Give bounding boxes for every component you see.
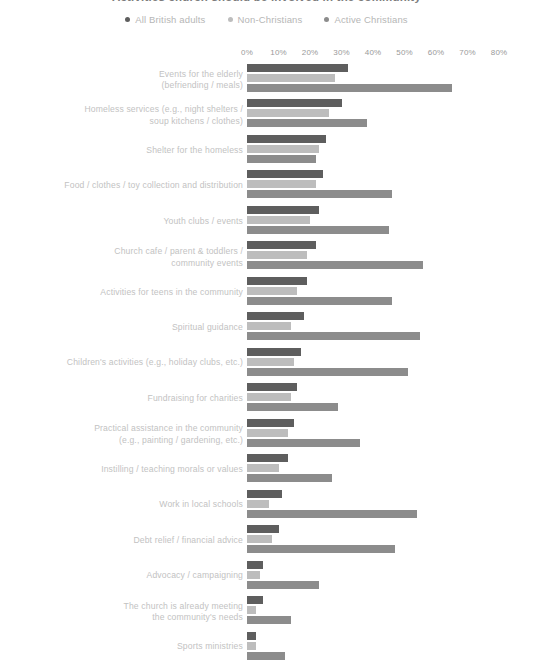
bar-active-christians[interactable] <box>247 510 417 518</box>
bar-all-british-adults[interactable] <box>247 454 288 462</box>
horizontal-bar-chart: Activities church should be involved in … <box>0 0 533 665</box>
bar-active-christians[interactable] <box>247 84 452 92</box>
bar-active-christians[interactable] <box>247 119 367 127</box>
bar-group <box>247 488 533 523</box>
category-label: Church cafe / parent & toddlers /communi… <box>11 246 243 269</box>
bar-all-british-adults[interactable] <box>247 561 263 569</box>
chart-title: Activities church should be involved in … <box>0 0 533 3</box>
x-axis-tick-20: 20% <box>302 48 318 57</box>
bar-non-christians[interactable] <box>247 358 294 366</box>
dot-icon <box>324 17 329 22</box>
chart-row: The church is already meetingthe communi… <box>0 594 533 629</box>
bar-non-christians[interactable] <box>247 145 319 153</box>
x-axis-tick-80: 80% <box>491 48 507 57</box>
bar-non-christians[interactable] <box>247 464 279 472</box>
bar-active-christians[interactable] <box>247 474 332 482</box>
bar-non-christians[interactable] <box>247 500 269 508</box>
bar-all-british-adults[interactable] <box>247 490 282 498</box>
legend-item-all-british-adults[interactable]: All British adults <box>125 14 205 25</box>
bar-active-christians[interactable] <box>247 439 360 447</box>
chart-row: Shelter for the homeless <box>0 133 533 168</box>
category-label: Advocacy / campaigning <box>11 571 243 583</box>
category-label: Events for the elderly(befriending / mea… <box>11 68 243 91</box>
chart-row: Church cafe / parent & toddlers /communi… <box>0 239 533 274</box>
bar-non-christians[interactable] <box>247 287 297 295</box>
bar-all-british-adults[interactable] <box>247 596 263 604</box>
bar-non-christians[interactable] <box>247 180 316 188</box>
x-axis-tick-0: 0% <box>241 48 253 57</box>
category-label: Practical assistance in the community(e.… <box>11 423 243 446</box>
bar-active-christians[interactable] <box>247 332 420 340</box>
legend-item-non-christians[interactable]: Non-Christians <box>228 14 303 25</box>
bar-group <box>247 559 533 594</box>
category-label: Fundraising for charities <box>11 393 243 405</box>
bar-non-christians[interactable] <box>247 74 335 82</box>
bar-all-british-adults[interactable] <box>247 419 294 427</box>
bar-active-christians[interactable] <box>247 155 316 163</box>
bar-non-christians[interactable] <box>247 606 256 614</box>
category-label: Shelter for the homeless <box>11 145 243 157</box>
legend-label: Active Christians <box>334 14 407 25</box>
bar-non-christians[interactable] <box>247 535 272 543</box>
bar-all-british-adults[interactable] <box>247 99 342 107</box>
bar-all-british-adults[interactable] <box>247 525 279 533</box>
category-label: Spiritual guidance <box>11 322 243 334</box>
bar-active-christians[interactable] <box>247 652 285 660</box>
bar-group <box>247 452 533 487</box>
bar-all-british-adults[interactable] <box>247 632 256 640</box>
bar-group <box>247 239 533 274</box>
chart-row: Debt relief / financial advice <box>0 523 533 558</box>
bar-non-christians[interactable] <box>247 216 310 224</box>
bar-active-christians[interactable] <box>247 261 423 269</box>
bar-non-christians[interactable] <box>247 251 307 259</box>
bar-group <box>247 204 533 239</box>
category-label: The church is already meetingthe communi… <box>11 600 243 623</box>
legend-item-active-christians[interactable]: Active Christians <box>324 14 407 25</box>
bar-active-christians[interactable] <box>247 403 338 411</box>
chart-row: Children's activities (e.g., holiday clu… <box>0 346 533 381</box>
category-label: Work in local schools <box>11 500 243 512</box>
bar-group <box>247 275 533 310</box>
chart-row: Fundraising for charities <box>0 381 533 416</box>
category-label: Homeless services (e.g., night shelters … <box>11 104 243 127</box>
x-axis-tick-50: 50% <box>396 48 412 57</box>
bar-group <box>247 523 533 558</box>
bar-all-british-adults[interactable] <box>247 241 316 249</box>
bar-active-christians[interactable] <box>247 226 389 234</box>
bar-all-british-adults[interactable] <box>247 135 326 143</box>
chart-row: Events for the elderly(befriending / mea… <box>0 62 533 97</box>
bar-active-christians[interactable] <box>247 616 291 624</box>
bar-all-british-adults[interactable] <box>247 64 348 72</box>
bar-group <box>247 168 533 203</box>
bar-non-christians[interactable] <box>247 429 288 437</box>
bar-all-british-adults[interactable] <box>247 170 323 178</box>
bar-all-british-adults[interactable] <box>247 206 319 214</box>
bar-active-christians[interactable] <box>247 545 395 553</box>
category-label: Food / clothes / toy collection and dist… <box>11 180 243 192</box>
dot-icon <box>125 17 130 22</box>
bar-active-christians[interactable] <box>247 190 392 198</box>
bar-active-christians[interactable] <box>247 297 392 305</box>
bar-group <box>247 97 533 132</box>
bar-non-christians[interactable] <box>247 109 329 117</box>
bar-all-british-adults[interactable] <box>247 312 304 320</box>
bar-non-christians[interactable] <box>247 571 260 579</box>
bar-all-british-adults[interactable] <box>247 277 307 285</box>
chart-row: Instilling / teaching morals or values <box>0 452 533 487</box>
bar-active-christians[interactable] <box>247 581 319 589</box>
bar-group <box>247 62 533 97</box>
bar-active-christians[interactable] <box>247 368 408 376</box>
chart-row: Youth clubs / events <box>0 204 533 239</box>
x-axis-tick-60: 60% <box>428 48 444 57</box>
bar-non-christians[interactable] <box>247 322 291 330</box>
x-axis-tick-70: 70% <box>459 48 475 57</box>
chart-row: Food / clothes / toy collection and dist… <box>0 168 533 203</box>
bar-group <box>247 594 533 629</box>
bar-all-british-adults[interactable] <box>247 383 297 391</box>
bar-non-christians[interactable] <box>247 642 256 650</box>
chart-legend: All British adults Non-Christians Active… <box>0 12 533 26</box>
bar-non-christians[interactable] <box>247 393 291 401</box>
bar-group <box>247 310 533 345</box>
bar-all-british-adults[interactable] <box>247 348 301 356</box>
dot-icon <box>228 17 233 22</box>
